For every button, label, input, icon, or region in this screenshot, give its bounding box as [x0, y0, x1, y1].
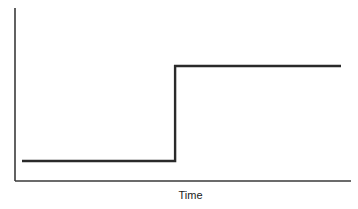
step-chart: Time: [0, 0, 358, 209]
x-axis-label: Time: [178, 189, 202, 201]
axes: [15, 8, 351, 181]
step-series-line: [22, 66, 341, 161]
